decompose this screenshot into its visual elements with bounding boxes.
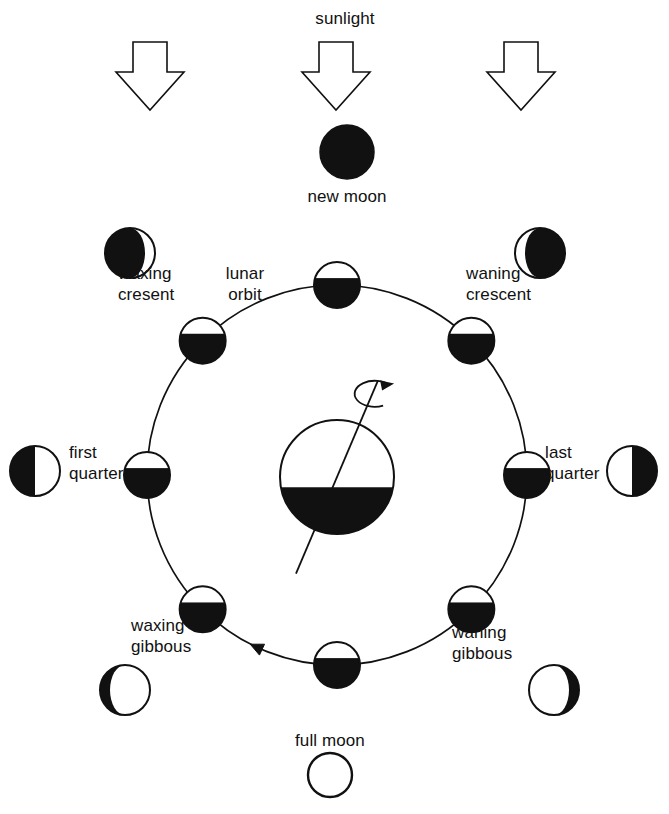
- earth-dark-hemisphere: [278, 487, 396, 548]
- sunlight-arrow-icon-2: [302, 42, 370, 110]
- waxing-gibbous-label-line1: waxing: [131, 615, 261, 636]
- last-quarter-label-line1: last: [545, 442, 655, 463]
- earth-body: [278, 380, 396, 573]
- full-moon-icon: [308, 753, 352, 797]
- waning-gibbous-icon-terminator: [539, 665, 569, 715]
- waning-gibbous-label-line2: gibbous: [452, 643, 582, 664]
- waning-crescent-label-line2: crescent: [466, 284, 596, 305]
- new-moon-label: new moon: [287, 186, 407, 207]
- new-moon-icon: [320, 125, 374, 179]
- waning-gibbous-label-line1: waning: [452, 622, 582, 643]
- lunar-phases-diagram: sunlight lunar orbit new moon full moon …: [0, 0, 669, 814]
- sunlight-arrow-group: [116, 42, 555, 110]
- waxing-crescent-label-line2: cresent: [118, 284, 228, 305]
- first-quarter-label-line2: quarter: [69, 463, 179, 484]
- first-quarter-label-line1: first: [69, 442, 179, 463]
- waning-crescent-label-line1: waning: [466, 263, 596, 284]
- sunlight-arrow-icon-3: [487, 42, 555, 110]
- waxing-gibbous-icon-terminator: [110, 665, 140, 715]
- sunlight-label: sunlight: [285, 8, 405, 29]
- sunlight-arrow-icon-1: [116, 42, 184, 110]
- last-quarter-label-line2: quarter: [545, 463, 655, 484]
- full-moon-label: full moon: [270, 730, 390, 751]
- first-quarter-icon-lit-half: [35, 444, 62, 498]
- waxing-crescent-label-line1: waxing: [118, 263, 228, 284]
- diagram-canvas: [0, 0, 669, 814]
- earth-rotation-arrowhead-icon: [380, 381, 394, 391]
- waxing-gibbous-label-line2: gibbous: [131, 636, 261, 657]
